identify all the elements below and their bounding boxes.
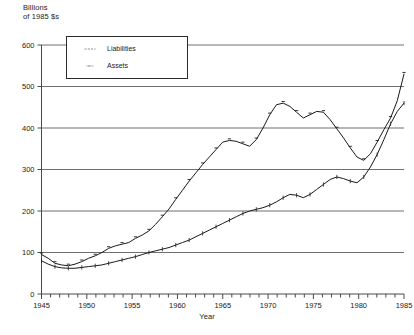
x-axis-title: Year <box>0 312 414 321</box>
y-tick-label: 0 <box>30 290 34 299</box>
y-tick-label: 200 <box>22 207 35 216</box>
chart-container: Billions of 1985 $s 0100200300400500600 … <box>0 0 414 335</box>
x-tick-group: 194519501955196019651970197519801985 <box>33 294 412 310</box>
legend-marker-plus-line <box>79 65 101 67</box>
x-tick-label: 1975 <box>305 301 322 310</box>
data-series-group <box>40 72 406 270</box>
series-markers-assets <box>42 101 405 270</box>
series-line-liabilities <box>42 74 405 266</box>
y-tick-label: 300 <box>22 165 35 174</box>
x-tick-label: 1985 <box>396 301 413 310</box>
y-tick-label: 100 <box>22 248 35 257</box>
x-tick-label: 1950 <box>78 301 95 310</box>
x-tick-label: 1980 <box>350 301 367 310</box>
x-tick-label: 1965 <box>214 301 231 310</box>
x-tick-label: 1945 <box>33 301 50 310</box>
chart-legend: Liabilities Assets <box>66 36 188 79</box>
y-tick-label: 400 <box>22 124 35 133</box>
y-tick-label: 600 <box>22 41 35 50</box>
y-tick-group: 0100200300400500600 <box>22 41 42 299</box>
legend-label-assets: Assets <box>107 62 128 69</box>
legend-label-liabilities: Liabilities <box>107 45 136 52</box>
legend-marker-dashed-line <box>79 48 101 50</box>
x-tick-label: 1955 <box>124 301 141 310</box>
series-markers-liabilities <box>40 72 406 264</box>
plot-area: 0100200300400500600 19451950195519601965… <box>0 0 414 335</box>
x-tick-label: 1960 <box>169 301 186 310</box>
x-tick-label: 1970 <box>260 301 277 310</box>
y-tick-label: 500 <box>22 82 35 91</box>
